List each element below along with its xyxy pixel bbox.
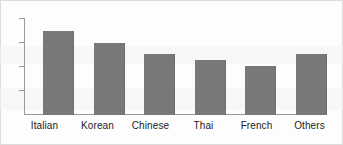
y-axis-tick — [19, 42, 25, 43]
x-axis-label: Thai — [177, 119, 230, 139]
bar — [296, 54, 327, 115]
bar — [245, 66, 276, 115]
x-axis-labels: ItalianKoreanChineseThaiFrenchOthers — [18, 119, 336, 139]
bar — [195, 60, 226, 115]
bar — [43, 31, 74, 115]
x-axis-label: Italian — [18, 119, 71, 139]
plot-area — [24, 10, 329, 115]
x-axis-label: Others — [283, 119, 336, 139]
x-axis-label: Chinese — [124, 119, 177, 139]
bar — [94, 43, 125, 115]
x-axis-label: Korean — [71, 119, 124, 139]
bar-chart-figure: ItalianKoreanChineseThaiFrenchOthers — [0, 0, 343, 145]
y-axis-tick — [19, 66, 25, 67]
y-axis-tick — [19, 90, 25, 91]
x-axis-label: French — [230, 119, 283, 139]
y-axis-tick — [19, 18, 25, 19]
bar — [144, 54, 175, 115]
